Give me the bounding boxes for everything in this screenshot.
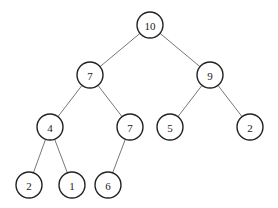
tree-node: 6: [95, 172, 121, 198]
tree-edge: [178, 85, 202, 116]
tree-edges: [33, 33, 242, 173]
tree-node: 4: [37, 114, 63, 140]
tree-node: 7: [117, 114, 143, 140]
node-label: 7: [87, 70, 93, 82]
tree-edge: [33, 139, 45, 173]
node-label: 5: [167, 122, 173, 134]
tree-edge: [58, 85, 82, 116]
binary-tree-diagram: 10794752216: [0, 0, 278, 208]
node-label: 9: [207, 70, 213, 82]
tree-edge: [55, 139, 68, 173]
node-label: 6: [105, 180, 111, 192]
node-label: 1: [69, 180, 75, 192]
tree-nodes: 10794752216: [16, 12, 263, 198]
tree-edge: [98, 85, 122, 116]
node-label: 10: [145, 20, 157, 32]
tree-edge: [100, 33, 140, 66]
tree-node: 9: [197, 62, 223, 88]
tree-edge: [160, 33, 200, 66]
node-label: 2: [26, 180, 32, 192]
tree-node: 10: [137, 12, 163, 38]
node-label: 2: [247, 122, 253, 134]
tree-edge: [218, 85, 242, 116]
tree-node: 5: [157, 114, 183, 140]
tree-node: 1: [59, 172, 85, 198]
tree-node: 2: [237, 114, 263, 140]
tree-node: 2: [16, 172, 42, 198]
tree-edge: [113, 139, 126, 173]
tree-node: 7: [77, 62, 103, 88]
node-label: 4: [47, 122, 53, 134]
node-label: 7: [127, 122, 133, 134]
